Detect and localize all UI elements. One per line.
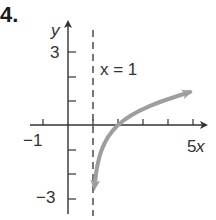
tick-label-3: 3 <box>50 43 59 62</box>
y-axis-label: y <box>50 21 61 40</box>
tick-label-5: 5 <box>187 137 196 156</box>
graph: y x 3 −3 −1 5 x = 1 <box>0 0 216 220</box>
x-axis-label: x <box>195 137 205 156</box>
tick-label-neg3: −3 <box>36 188 55 207</box>
asymptote-label: x = 1 <box>100 60 137 79</box>
tick-label-neg1: −1 <box>23 131 42 150</box>
log-curve <box>95 92 190 183</box>
